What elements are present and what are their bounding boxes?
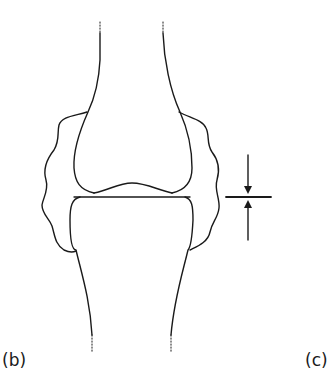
joint-space-indicator bbox=[226, 155, 271, 240]
panel-label-b: (b) bbox=[2, 350, 26, 370]
upper-bone bbox=[74, 22, 192, 193]
right-joint-capsule bbox=[179, 112, 219, 250]
lower-bone bbox=[70, 197, 193, 352]
panel-label-c: (c) bbox=[305, 350, 328, 370]
